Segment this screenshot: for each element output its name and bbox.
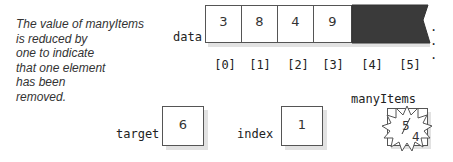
index-box: 1 [281, 106, 323, 146]
diagram-shapes [0, 0, 453, 162]
index-label-1: [1] [245, 58, 275, 72]
target-box: 6 [162, 106, 204, 146]
ellipsis: . . . [430, 20, 453, 62]
index-label-4: [4] [357, 58, 387, 72]
index-label-2: [2] [283, 58, 313, 72]
index-label-3: [3] [318, 58, 348, 72]
unused-array-region [352, 5, 430, 43]
many-items-old-value: 5 [402, 119, 410, 133]
many-items-new-value: 4 [412, 130, 420, 144]
index-label-0: [0] [210, 58, 240, 72]
target-label: target [116, 127, 159, 141]
index-var-label: index [237, 127, 273, 141]
many-items-label: manyItems [351, 92, 416, 106]
index-label-5: [5] [395, 58, 425, 72]
